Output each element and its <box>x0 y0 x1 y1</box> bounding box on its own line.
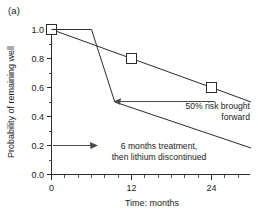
y-tick-label: 0.8 <box>31 54 44 64</box>
y-tick-label: 0.0 <box>31 170 44 180</box>
x-axis-title: Time: months <box>125 198 180 208</box>
annotation-arrowhead <box>90 142 98 149</box>
series-untreated-gradual-decline <box>47 25 252 103</box>
chart-canvas: 1.0 0.8 0.6 0.4 0.2 0.0 Probability of r… <box>0 0 258 211</box>
y-tick-label: 1.0 <box>31 25 44 35</box>
x-tick-label: 0 <box>49 183 54 193</box>
x-axis: 0 12 24 Time: months <box>49 175 250 209</box>
y-tick-label: 0.6 <box>31 83 44 93</box>
annotation-text-line: forward <box>221 112 250 122</box>
series-line-rebound <box>52 30 252 149</box>
series-line-gradual <box>52 30 252 103</box>
y-tick-label: 0.4 <box>31 112 44 122</box>
x-tick-label: 24 <box>206 183 216 193</box>
data-point-marker <box>207 83 217 93</box>
annotation-treatment-discontinued: 6 months treatment, then lithium discont… <box>53 141 207 162</box>
annotation-arrowhead <box>114 98 122 105</box>
y-axis-title: Probability of remaining well <box>6 46 16 158</box>
series-lithium-discontinued-rebound <box>52 30 252 149</box>
annotation-text-line: 50% risk brought <box>186 101 251 111</box>
annotation-text-line: then lithium discontinued <box>112 152 207 162</box>
annotation-text-line: 6 months treatment, <box>121 141 197 151</box>
y-tick-label: 0.2 <box>31 141 44 151</box>
figure-panel-a: (a) 1.0 0.8 0.6 0.4 0.2 0.0 <box>0 0 258 211</box>
annotation-risk-brought-forward: 50% risk brought forward <box>114 98 251 122</box>
data-point-marker <box>127 54 137 64</box>
x-tick-label: 12 <box>126 183 136 193</box>
y-axis: 1.0 0.8 0.6 0.4 0.2 0.0 Probability of r… <box>6 25 52 180</box>
